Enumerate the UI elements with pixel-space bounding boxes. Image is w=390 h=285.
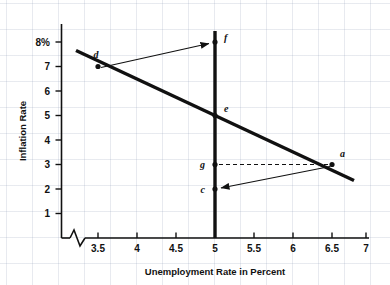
x-tick-label-4-5: 4.5 — [169, 243, 183, 254]
data-point-label-g: g — [199, 159, 205, 170]
data-point-labels: f d e a g c — [94, 32, 346, 195]
data-point-c[interactable] — [212, 186, 217, 191]
x-tick-label-3-5: 3.5 — [91, 243, 105, 254]
y-axis-ticks — [56, 42, 62, 214]
chart-page: 1 2 3 4 5 6 7 8% 3.5 4 4.5 5 5.5 6 — [0, 0, 390, 285]
arrow-d-to-f — [101, 44, 209, 68]
x-axis-tick-labels: 3.5 4 4.5 5 5.5 6 6.5 7 — [91, 243, 369, 254]
y-tick-label-3: 3 — [44, 159, 50, 170]
x-tick-label-5-5: 5.5 — [247, 243, 261, 254]
x-tick-label-6-5: 6.5 — [325, 243, 339, 254]
x-tick-label-4: 4 — [134, 243, 140, 254]
x-axis-title: Unemployment Rate in Percent — [145, 266, 286, 277]
y-tick-label-1: 1 — [44, 208, 50, 219]
y-tick-label-2: 2 — [44, 184, 50, 195]
y-axis-tick-labels: 1 2 3 4 5 6 7 8% — [36, 37, 51, 220]
data-point-label-f: f — [224, 32, 229, 43]
data-point-a[interactable] — [329, 162, 334, 167]
data-point-f[interactable] — [212, 39, 217, 44]
arrow-a-to-c — [221, 167, 330, 189]
x-tick-label-7: 7 — [363, 243, 369, 254]
axis-break-zigzag — [70, 230, 85, 246]
y-tick-label-8: 8% — [36, 37, 51, 48]
y-axis-title: Inflation Rate — [17, 101, 28, 161]
x-tick-label-6: 6 — [290, 243, 296, 254]
x-tick-label-5: 5 — [212, 243, 218, 254]
data-point-d[interactable] — [95, 64, 100, 69]
phillips-curve-chart: 1 2 3 4 5 6 7 8% 3.5 4 4.5 5 5.5 6 — [0, 0, 390, 285]
y-tick-label-5: 5 — [44, 110, 50, 121]
data-point-e[interactable] — [212, 113, 217, 118]
data-point-label-c: c — [201, 184, 206, 195]
y-tick-label-4: 4 — [44, 135, 50, 146]
data-point-label-e: e — [224, 103, 229, 114]
data-point-label-d: d — [94, 49, 100, 60]
y-tick-label-6: 6 — [44, 86, 50, 97]
data-point-label-a: a — [340, 148, 345, 159]
data-point-g[interactable] — [212, 162, 217, 167]
y-tick-label-7: 7 — [44, 61, 50, 72]
x-axis-ticks — [98, 233, 366, 239]
